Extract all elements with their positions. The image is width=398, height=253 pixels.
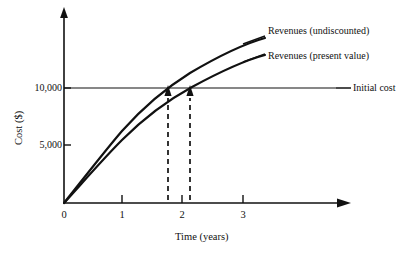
y-tick-label-5000: 5,000	[18, 140, 62, 150]
payback-period-chart: 10,000 5,000 0 1 2 3 Cost ($) Time (year…	[0, 0, 398, 253]
x-axis-title: Time (years)	[175, 232, 229, 243]
x-tick-label-2: 2	[174, 210, 190, 221]
x-tick-label-1: 1	[114, 210, 130, 221]
series-label-revenues-present-value: Revenues (present value)	[268, 51, 369, 61]
payback-marker-present-value	[186, 85, 193, 200]
x-tick-label-0: 0	[56, 210, 72, 221]
y-tick-label-10000: 10,000	[18, 83, 62, 93]
y-axis-title: Cost ($)	[14, 111, 25, 145]
y-axis-arrow-icon	[60, 7, 68, 18]
y-axis	[60, 7, 68, 203]
initial-cost-label: Initial cost	[353, 83, 396, 93]
leader-line-present-value	[243, 54, 265, 62]
x-tick-label-3: 3	[235, 210, 251, 221]
series-label-revenues-undiscounted: Revenues (undiscounted)	[268, 26, 369, 36]
y-axis-ticks	[64, 88, 71, 145]
series-line-revenues-present-value	[64, 55, 265, 203]
series-line-revenues-undiscounted	[64, 38, 265, 203]
x-axis-arrow-icon	[337, 199, 351, 208]
x-axis	[64, 199, 351, 208]
x-axis-ticks	[122, 195, 243, 203]
